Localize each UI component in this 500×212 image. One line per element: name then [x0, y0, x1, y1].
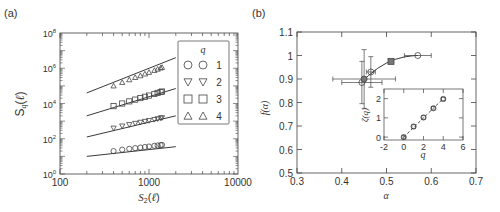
panel-a-label: (a)	[4, 7, 17, 19]
inset-x-tick-label: 0	[401, 142, 406, 152]
inset-y-tick-label: 1	[376, 113, 381, 123]
triangle-up-marker-icon	[120, 80, 125, 85]
y-tick-label: 0.6	[279, 145, 293, 156]
y-tick-label: 0.8	[279, 98, 293, 109]
legend-entry-label: 4	[216, 111, 222, 122]
x-tick-label: 10000	[224, 177, 252, 188]
y-tick-label: 108	[43, 28, 57, 39]
panel-a-chart: (a) 100100010000100102104106108 q 1234 S…	[4, 7, 252, 204]
legend-entry-label: 2	[216, 77, 222, 88]
inset-y-tick-label: 0	[376, 133, 381, 143]
panel-a-legend: q 1234	[178, 41, 229, 124]
x-tick-label: 0.4	[335, 176, 349, 187]
inset-y-axis-label: ζ(q)	[360, 108, 370, 122]
legend-title: q	[201, 44, 206, 55]
panel-a-y-axis-label: Sq(ℓ)	[13, 91, 28, 116]
x-tick-label: 100	[52, 177, 69, 188]
x-tick-label: 0.5	[380, 176, 394, 187]
figure: (a) 100100010000100102104106108 q 1234 S…	[0, 0, 500, 212]
panel-a-data-points	[111, 65, 165, 154]
x-tick-label: 0.7	[469, 176, 483, 187]
circle-marker-icon	[133, 145, 138, 150]
inset-x-tick-label: -2	[380, 142, 388, 152]
panel-a-x-axis-label: S2(ℓ)	[138, 191, 159, 204]
circle-marker-icon	[361, 76, 367, 82]
panel-b-inset-chart: -20246012 q ζ(q)	[360, 89, 466, 160]
y-tick-label: 0.5	[279, 168, 293, 179]
triangle-up-marker-icon	[111, 83, 116, 88]
y-tick-label: 106	[43, 63, 57, 74]
panel-b-x-axis-label: α	[383, 190, 389, 201]
panel-b-chart: (b) 0.30.40.50.60.70.50.60.70.80.911.1 α…	[252, 7, 483, 201]
y-tick-label: 104	[43, 99, 57, 110]
fit-line	[87, 58, 176, 93]
inset-x-axis-label: q	[421, 149, 426, 160]
y-tick-label: 0.9	[279, 74, 293, 85]
inset-x-tick-label: 4	[441, 142, 446, 152]
panel-b-label: (b)	[252, 7, 265, 19]
panel-b-y-axis-label: f(α)	[259, 100, 271, 115]
legend-entry-label: 1	[216, 60, 222, 71]
x-tick-label: 1000	[138, 177, 161, 188]
y-tick-label: 1	[287, 51, 293, 62]
y-tick-label: 0.7	[279, 121, 293, 132]
inset-x-tick-label: 6	[460, 142, 465, 152]
triangle-up-marker-icon	[127, 77, 132, 82]
inset-y-tick-label: 2	[376, 94, 381, 104]
circle-marker-icon	[120, 147, 125, 152]
fit-line	[87, 147, 176, 157]
triangle-up-marker-icon	[133, 75, 138, 80]
y-tick-label: 102	[43, 134, 57, 145]
x-tick-label: 0.6	[424, 176, 438, 187]
legend-entry-label: 3	[216, 94, 222, 105]
square-marker-icon	[388, 58, 394, 64]
y-tick-label: 1.1	[279, 27, 293, 38]
fit-line	[87, 89, 176, 116]
triangle-up-marker-icon	[146, 70, 151, 75]
circle-marker-icon	[127, 146, 132, 151]
panel-a-fit-lines	[87, 58, 176, 157]
circle-marker-icon	[111, 148, 116, 153]
